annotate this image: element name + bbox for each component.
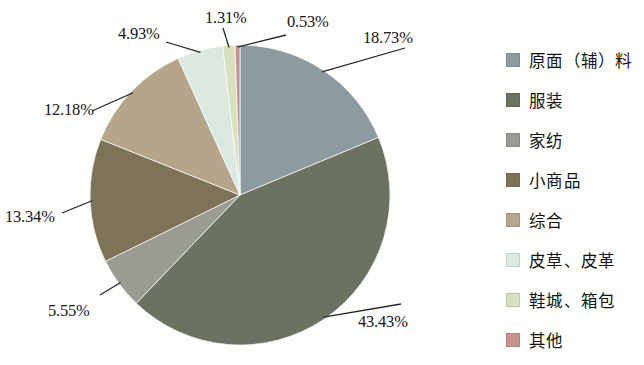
legend-color-swatch-icon	[506, 213, 520, 227]
pie-leader-line	[238, 35, 286, 47]
pie-leader-line	[62, 201, 92, 213]
pie-chart-area: 18.73%43.43%5.55%13.34%12.18%4.93%1.31%0…	[0, 0, 480, 365]
legend-item-label: 其他	[529, 328, 564, 352]
legend-item-label: 服装	[529, 88, 564, 112]
pie-percentage-label: 5.55%	[48, 301, 90, 321]
legend-color-swatch-icon	[506, 253, 520, 267]
legend-color-swatch-icon	[506, 173, 520, 187]
legend-color-swatch-icon	[506, 133, 520, 147]
legend-color-swatch-icon	[506, 293, 520, 307]
pie-chart-figure: 18.73%43.43%5.55%13.34%12.18%4.93%1.31%0…	[0, 0, 644, 365]
legend-item-label: 综合	[529, 208, 564, 232]
pie-percentage-label: 18.73%	[363, 28, 413, 48]
legend-color-swatch-icon	[506, 93, 520, 107]
pie-percentage-label: 13.34%	[5, 207, 55, 227]
chart-legend: 原面（辅）料服装家纺小商品综合皮草、皮革鞋城、箱包其他	[506, 40, 644, 360]
pie-percentage-label: 12.18%	[44, 100, 94, 120]
legend-item-label: 小商品	[529, 168, 581, 192]
legend-color-swatch-icon	[506, 53, 520, 67]
pie-percentage-label: 4.93%	[118, 24, 160, 44]
legend-item-label: 原面（辅）料	[529, 48, 633, 72]
legend-item[interactable]: 服装	[506, 80, 644, 120]
legend-item[interactable]: 家纺	[506, 120, 644, 160]
legend-item[interactable]: 小商品	[506, 160, 644, 200]
pie-leader-line	[223, 28, 229, 47]
legend-item-label: 家纺	[529, 128, 564, 152]
legend-item[interactable]: 综合	[506, 200, 644, 240]
legend-color-swatch-icon	[506, 333, 520, 347]
pie-slice-group	[90, 45, 390, 345]
pie-percentage-label: 1.31%	[205, 8, 247, 28]
pie-leader-line	[100, 282, 121, 295]
pie-percentage-label: 43.43%	[358, 312, 408, 332]
legend-item-label: 鞋城、箱包	[529, 288, 616, 312]
legend-item-label: 皮草、皮革	[529, 248, 616, 272]
legend-item[interactable]: 鞋城、箱包	[506, 280, 644, 320]
legend-item[interactable]: 原面（辅）料	[506, 40, 644, 80]
pie-leader-line	[322, 48, 405, 72]
pie-leader-line	[166, 42, 200, 52]
legend-item[interactable]: 其他	[506, 320, 644, 360]
pie-percentage-label: 0.53%	[287, 12, 329, 32]
legend-item[interactable]: 皮草、皮革	[506, 240, 644, 280]
